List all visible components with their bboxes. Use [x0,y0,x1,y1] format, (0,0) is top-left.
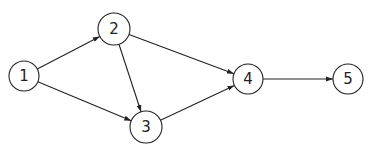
network-diagram: 12345 [0,0,372,154]
edge-2-to-4 [129,35,234,74]
node-3: 3 [130,111,162,143]
node-label: 1 [19,67,29,85]
edges-group [37,35,333,121]
edge-2-to-3 [119,44,141,112]
node-label: 5 [343,70,353,88]
node-2: 2 [98,13,130,45]
node-label: 4 [243,70,253,88]
node-4: 4 [233,64,263,94]
edge-3-to-4 [160,85,234,120]
nodes-group: 12345 [9,13,363,143]
edge-1-to-2 [37,36,100,69]
node-label: 3 [141,118,151,136]
node-1: 1 [9,61,39,91]
node-5: 5 [333,64,363,94]
node-label: 2 [109,20,119,38]
edge-1-to-3 [38,82,131,121]
